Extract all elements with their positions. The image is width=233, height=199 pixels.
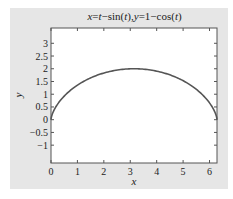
- y-tick-label: −1: [37, 140, 48, 151]
- chart-canvas: 0123456 −1−0.500.511.522.53 x y: [0, 0, 233, 199]
- x-tick-label: 6: [207, 166, 212, 177]
- y-axis-label: y: [12, 92, 24, 98]
- y-tick-label: 1.5: [36, 76, 49, 87]
- x-tick-label: 0: [49, 166, 54, 177]
- y-tick-label: 2.5: [36, 51, 49, 62]
- y-tick-label: 0.5: [36, 101, 49, 112]
- x-tick-labels: 0123456: [49, 166, 213, 177]
- y-tick-label: 2: [43, 63, 48, 74]
- x-tick-label: 2: [101, 166, 106, 177]
- x-tick-label: 5: [181, 166, 186, 177]
- x-tick-label: 1: [75, 166, 80, 177]
- y-tick-label: 1: [43, 89, 48, 100]
- y-tick-label: 0: [43, 114, 48, 125]
- y-tick-label: −0.5: [30, 127, 48, 138]
- y-tick-label: 3: [43, 38, 48, 49]
- x-axis-label: x: [131, 175, 137, 187]
- plot-area: [51, 28, 217, 163]
- x-tick-label: 4: [154, 166, 159, 177]
- y-tick-labels: −1−0.500.511.522.53: [30, 38, 48, 151]
